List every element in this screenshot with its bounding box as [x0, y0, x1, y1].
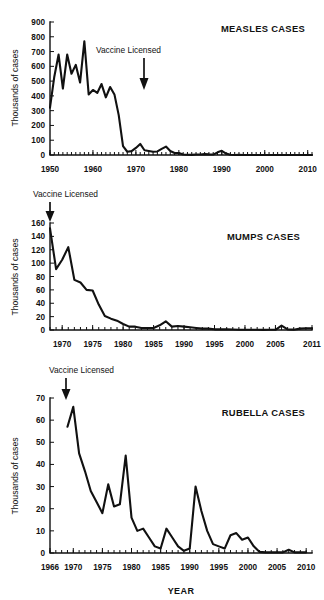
rubella-y-tick-label: 30 [36, 483, 46, 492]
mumps-x-tick-label: 1995 [205, 340, 224, 349]
x-axis-title: YEAR [168, 586, 195, 596]
mumps-y-tick-label: 80 [36, 273, 46, 282]
rubella-y-tick-label: 70 [36, 394, 46, 403]
measles-y-tick-label: 700 [31, 48, 45, 57]
rubella-x-tick-labels: 1966197019751980198519901995200020052010 [41, 563, 316, 572]
measles-y-tick-label: 500 [31, 77, 45, 86]
measles-x-tick-label: 1980 [170, 165, 189, 174]
mumps-y-tick-label: 160 [31, 219, 45, 228]
rubella-y-tick-label: 10 [36, 527, 46, 536]
rubella-x-tick-label: 2005 [268, 563, 287, 572]
measles-x-tick-label: 1960 [84, 165, 103, 174]
rubella-y-axis-label: Thousands of cases [10, 438, 20, 515]
mumps-x-tick-label: 1980 [114, 340, 133, 349]
mumps-x-tick-label: 1990 [175, 340, 194, 349]
rubella-y-tick-label: 0 [40, 549, 45, 558]
measles-data-line [50, 41, 312, 155]
rubella-x-tick-label: 1990 [181, 563, 200, 572]
mumps-y-axis-label: Thousands of cases [10, 239, 20, 316]
chart-panel-rubella: 010203040506070 196619701975198019851990… [0, 358, 324, 600]
chart-panel-mumps: 020406080100120140160 197019751980198519… [0, 185, 324, 360]
rubella-x-tick-label: 1975 [93, 563, 112, 572]
mumps-chart-title: MUMPS CASES [227, 231, 300, 242]
rubella-axis-lines [50, 398, 312, 553]
measles-chart-svg: 0100200300400500600700800900 19501960197… [0, 0, 324, 188]
chart-panel-measles: 0100200300400500600700800900 19501960197… [0, 0, 324, 188]
mumps-y-tick-label: 140 [31, 232, 45, 241]
mumps-x-tick-label: 2011 [303, 340, 321, 349]
measles-y-tick-label: 600 [31, 62, 45, 71]
rubella-y-tick-label: 20 [36, 505, 46, 514]
figure-root: 0100200300400500600700800900 19501960197… [0, 0, 324, 600]
measles-vaccine-arrow-icon [140, 58, 149, 90]
rubella-x-tick-label: 1985 [152, 563, 171, 572]
measles-x-tick-labels: 1950196019701980199020002010 [41, 165, 317, 174]
measles-y-tick-label: 300 [31, 107, 45, 116]
mumps-chart-svg: 020406080100120140160 197019751980198519… [0, 185, 324, 360]
rubella-chart-title: RUBELLA CASES [222, 407, 305, 418]
rubella-y-tick-labels: 010203040506070 [36, 394, 46, 558]
measles-x-tick-label: 1990 [213, 165, 232, 174]
measles-plot-area [50, 22, 312, 155]
rubella-vaccine-arrow-icon [62, 378, 71, 400]
mumps-y-tick-label: 20 [36, 313, 46, 322]
mumps-data-line [50, 228, 312, 330]
measles-x-tick-label: 1970 [127, 165, 146, 174]
mumps-x-tick-label: 1975 [84, 340, 103, 349]
measles-y-tick-labels: 0100200300400500600700800900 [31, 18, 45, 160]
mumps-x-tick-label: 2005 [266, 340, 285, 349]
rubella-y-tick-label: 40 [36, 460, 46, 469]
measles-x-tick-label: 2010 [299, 165, 318, 174]
rubella-data-line [67, 407, 306, 552]
mumps-y-tick-label: 100 [31, 259, 45, 268]
rubella-x-tick-label: 1980 [122, 563, 141, 572]
rubella-y-tick-label: 60 [36, 416, 46, 425]
measles-annotation-label: Vaccine Licensed [96, 45, 161, 55]
measles-y-tick-label: 400 [31, 92, 45, 101]
mumps-annotation-label: Vaccine Licensed [33, 189, 98, 199]
mumps-y-tick-label: 120 [31, 246, 45, 255]
rubella-x-tick-label: 1966 [41, 563, 60, 572]
rubella-y-tick-label: 50 [36, 438, 46, 447]
measles-chart-title: MEASLES CASES [221, 23, 305, 34]
measles-x-tick-label: 2000 [256, 165, 275, 174]
rubella-x-tick-label: 2000 [239, 563, 258, 572]
rubella-x-tick-label: 1995 [210, 563, 229, 572]
measles-x-tick-label: 1950 [41, 165, 60, 174]
mumps-y-tick-labels: 020406080100120140160 [31, 219, 45, 335]
rubella-chart-svg: 010203040506070 196619701975198019851990… [0, 358, 324, 600]
measles-y-axis-label: Thousands of cases [10, 50, 20, 127]
measles-y-tick-label: 200 [31, 121, 45, 130]
mumps-x-tick-label: 1985 [144, 340, 163, 349]
mumps-x-tick-labels: 197019751980198519901995200020052011 [53, 340, 321, 349]
measles-y-tick-label: 0 [40, 151, 45, 160]
measles-axis-lines [50, 22, 312, 155]
rubella-annotation-label: Vaccine Licensed [49, 365, 114, 375]
measles-y-tick-label: 100 [31, 136, 45, 145]
measles-y-tick-label: 800 [31, 33, 45, 42]
mumps-x-tick-label: 2000 [236, 340, 255, 349]
mumps-y-tick-label: 60 [36, 286, 46, 295]
mumps-y-tick-label: 0 [40, 326, 45, 335]
rubella-x-tick-label: 2010 [297, 563, 316, 572]
measles-y-tick-label: 900 [31, 18, 45, 27]
mumps-vaccine-arrow-icon [46, 202, 55, 222]
mumps-x-tick-label: 1970 [53, 340, 72, 349]
rubella-x-tick-label: 1970 [64, 563, 83, 572]
mumps-y-tick-label: 40 [36, 299, 46, 308]
